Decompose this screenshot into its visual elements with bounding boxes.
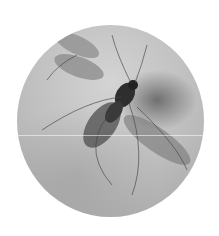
image-alt: Grayscale circular close-up illustration… xyxy=(0,0,1,1)
scan-line xyxy=(17,135,204,136)
insect-head xyxy=(128,80,138,90)
circular-image-frame xyxy=(17,25,204,217)
lower-wing-right xyxy=(117,107,196,173)
insect-illustration xyxy=(17,25,204,217)
